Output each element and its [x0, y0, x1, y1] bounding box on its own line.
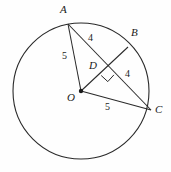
- geometry-figure: A B C D O 5 4 4 5: [0, 0, 171, 172]
- point-label-b: B: [131, 27, 138, 38]
- segment-ac-chord: [68, 24, 151, 110]
- point-label-c: C: [155, 104, 162, 115]
- right-angle-marker-icon: [101, 75, 114, 82]
- segment-oc: [81, 91, 151, 110]
- geometry-canvas: [0, 0, 171, 172]
- point-label-d: D: [89, 60, 97, 71]
- measure-oa: 5: [62, 51, 67, 61]
- measure-ad: 4: [88, 33, 93, 43]
- measure-oc: 5: [105, 102, 110, 112]
- point-label-o: O: [67, 92, 75, 103]
- measure-dc: 4: [125, 69, 130, 79]
- center-point-dot: [79, 89, 83, 93]
- segment-oa: [68, 24, 81, 91]
- point-label-a: A: [60, 4, 67, 15]
